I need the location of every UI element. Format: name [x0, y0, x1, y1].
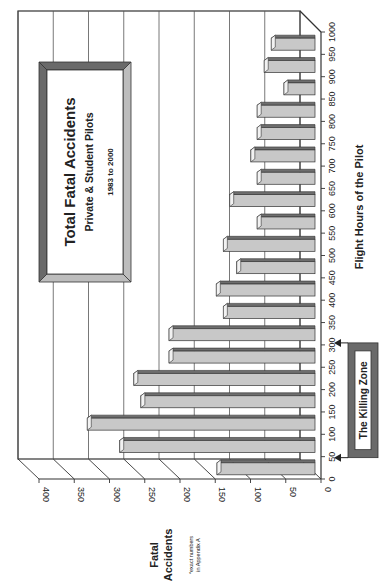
floor-gridline	[18, 459, 39, 479]
value-axis-label-line1: Fatal	[148, 542, 160, 568]
bar-top-face	[216, 281, 315, 284]
category-tick-label: 800	[327, 114, 337, 129]
bar	[251, 150, 315, 162]
bar	[120, 440, 315, 452]
category-tick-label: 700	[327, 159, 337, 174]
bar-top-face	[257, 102, 315, 105]
bar	[271, 38, 315, 50]
category-tick-label: 450	[327, 270, 337, 285]
bar	[237, 262, 315, 274]
floor-gridline	[159, 459, 180, 479]
category-tick-label: 650	[327, 181, 337, 196]
value-tick-label: 50	[288, 487, 298, 497]
bar-top-face	[230, 192, 315, 195]
fatal-accidents-chart: 0501001502002503003504000501001502002503…	[0, 0, 392, 588]
value-tick-label: 100	[253, 487, 263, 502]
bar-end-face	[169, 348, 173, 363]
bar-end-face	[169, 326, 173, 341]
bar-end-face	[284, 80, 288, 95]
bar-top-face	[264, 58, 315, 61]
bar	[257, 128, 315, 140]
value-tick-label: 150	[217, 487, 227, 502]
bar-end-face	[257, 125, 261, 140]
top-edge	[300, 11, 321, 32]
bar	[284, 83, 315, 95]
bar-end-face	[134, 370, 138, 385]
category-tick-label: 0	[327, 476, 337, 481]
floor-gridline	[124, 459, 145, 479]
title-frame-left	[39, 62, 47, 282]
bar-end-face	[223, 236, 227, 251]
bar-end-face	[257, 102, 261, 117]
category-tick-label: 600	[327, 203, 337, 218]
bar	[223, 239, 315, 251]
bar-end-face	[251, 147, 255, 162]
category-tick-label: 900	[327, 69, 337, 84]
bar	[134, 373, 315, 385]
bar-top-face	[120, 437, 315, 440]
bar-top-face	[257, 214, 315, 217]
bar-top-face	[257, 125, 315, 128]
value-tick-label: 200	[182, 487, 192, 502]
chart-title-text: Total Fatal Accidents	[61, 97, 78, 246]
bar-top-face	[169, 348, 315, 351]
bar-top-face	[257, 169, 315, 172]
bar	[223, 306, 315, 318]
bar-top-face	[141, 393, 315, 396]
bar	[216, 284, 315, 296]
bar-end-face	[223, 303, 227, 318]
bar-end-face	[120, 437, 124, 452]
value-axis-note-line1: *exact numbers	[188, 536, 194, 574]
bar	[141, 396, 315, 408]
value-tick-label: 250	[147, 487, 157, 502]
bar-end-face	[271, 35, 275, 50]
chart-subtitle-text: Private & Student Pilots	[83, 112, 95, 231]
killing-zone-text: The Killing Zone	[358, 361, 369, 439]
bar	[257, 217, 315, 229]
category-tick-label: 750	[327, 136, 337, 151]
bar-top-face	[284, 80, 315, 83]
bar-top-face	[223, 303, 315, 306]
bar-top-face	[87, 415, 315, 418]
bar-end-face	[264, 58, 268, 73]
value-tick-label: 350	[76, 487, 86, 502]
floor-gridline	[53, 459, 74, 479]
value-axis-label-line2: Accidents	[162, 529, 174, 582]
bar-end-face	[87, 415, 91, 430]
value-axis-note-line2: in Appendix A	[195, 538, 201, 572]
category-tick-label: 200	[327, 382, 337, 397]
bar-top-face	[223, 236, 315, 239]
bar-end-face	[141, 393, 145, 408]
bar-end-face	[257, 169, 261, 184]
bar	[257, 105, 315, 117]
bar-top-face	[237, 259, 315, 262]
category-tick-label: 950	[327, 47, 337, 62]
bar	[169, 329, 315, 341]
title-frame-top	[39, 62, 131, 70]
bar-top-face	[271, 35, 315, 38]
chart-period-text: 1983 to 2000	[106, 148, 115, 196]
value-tick-label: 300	[112, 487, 122, 502]
title-frame-bottom	[39, 274, 131, 282]
bar	[87, 418, 315, 430]
value-tick-label: 400	[41, 487, 51, 502]
category-tick-label: 500	[327, 248, 337, 263]
bar-top-face	[251, 147, 315, 150]
bar	[217, 463, 315, 475]
category-tick-label: 350	[327, 315, 337, 330]
category-tick-label: 250	[327, 360, 337, 375]
category-tick-label: 150	[327, 404, 337, 419]
bar	[264, 61, 315, 73]
category-tick-label: 100	[327, 427, 337, 442]
category-axis-label: Flight Hours of the Pilot	[353, 144, 365, 269]
bar	[230, 195, 315, 207]
bar	[257, 172, 315, 184]
chart-canvas: 0501001502002503003504000501001502002503…	[0, 0, 392, 588]
bar-end-face	[257, 214, 261, 229]
category-tick-label: 1000	[327, 22, 337, 42]
bar-top-face	[134, 370, 315, 373]
category-tick-label: 300	[327, 337, 337, 352]
floor-gridline	[194, 459, 215, 479]
bar-top-face	[169, 326, 315, 329]
bar-top-face	[217, 460, 315, 463]
